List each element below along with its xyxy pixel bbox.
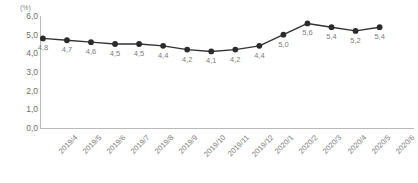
x-category-label: 2019/5 [81,133,104,156]
x-category-label: 2020/4 [345,133,368,156]
x-category-label: 2019/9 [177,133,200,156]
x-category-label: 2019/7 [129,133,152,156]
x-category-label: 2020/6 [393,133,416,156]
x-category-label: 2020/1 [273,133,296,156]
x-category-label: 2020/3 [321,133,344,156]
x-category-label: 2019/10 [202,133,228,159]
x-axis-category-labels: 2019/42019/52019/62019/72019/82019/92019… [0,0,418,183]
x-category-label: 2019/11 [226,133,251,158]
line-chart: (%) 6,05,04,03,02,01,00,0 4,84,74,64,54,… [0,0,418,183]
x-category-label: 2019/6 [105,133,128,156]
x-category-label: 2020/5 [369,133,392,156]
x-category-label: 2020/2 [297,133,320,156]
x-category-label: 2019/4 [57,133,80,156]
x-category-label: 2019/12 [250,133,276,159]
x-category-label: 2019/8 [153,133,176,156]
